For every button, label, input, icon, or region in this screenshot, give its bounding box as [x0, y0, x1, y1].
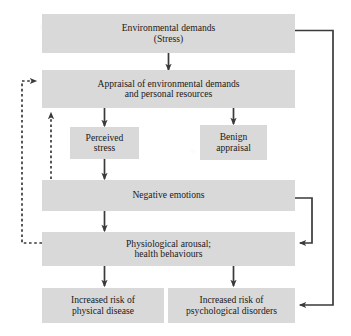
box-increased-risk-physical-disease-line2: physical disease — [71, 306, 135, 316]
connector-right-outer-loop-to-environmental-demands — [295, 31, 333, 306]
box-environmental-demands[interactable]: Environmental demands (Stress) — [42, 14, 295, 53]
box-environmental-demands-line2: (Stress) — [122, 34, 216, 44]
box-physiological-arousal-line2: health behaviours — [126, 249, 211, 259]
connector-physiological-arousal-dashed-to-appraisal — [22, 81, 42, 243]
box-appraisal[interactable]: Appraisal of environmental demands and p… — [42, 70, 295, 108]
flowchart-diagram: Environmental demands (Stress) Appraisal… — [0, 0, 351, 336]
connector-negative-emotions-feedback-to-physiological-arousal — [295, 198, 312, 243]
box-increased-risk-physical-disease-line1: Increased risk of — [71, 295, 135, 305]
box-increased-risk-physical-disease[interactable]: Increased risk of physical disease — [42, 288, 164, 323]
box-negative-emotions-line1: Negative emotions — [132, 190, 204, 200]
box-increased-risk-psychological-disorders-line2: psychological disorders — [186, 306, 277, 316]
box-perceived-stress-line2: stress — [86, 143, 124, 153]
box-increased-risk-psychological-disorders-line1: Increased risk of — [186, 295, 277, 305]
box-increased-risk-psychological-disorders[interactable]: Increased risk of psychological disorder… — [168, 288, 295, 323]
box-appraisal-line2: and personal resources — [98, 89, 240, 99]
box-perceived-stress[interactable]: Perceived stress — [70, 127, 139, 159]
box-physiological-arousal[interactable]: Physiological arousal; health behaviours — [42, 232, 295, 266]
box-benign-appraisal[interactable]: Benign appraisal — [200, 125, 267, 160]
box-benign-appraisal-line2: appraisal — [216, 143, 251, 153]
box-negative-emotions[interactable]: Negative emotions — [42, 180, 295, 211]
box-benign-appraisal-line1: Benign — [216, 132, 251, 142]
box-environmental-demands-line1: Environmental demands — [122, 23, 216, 33]
